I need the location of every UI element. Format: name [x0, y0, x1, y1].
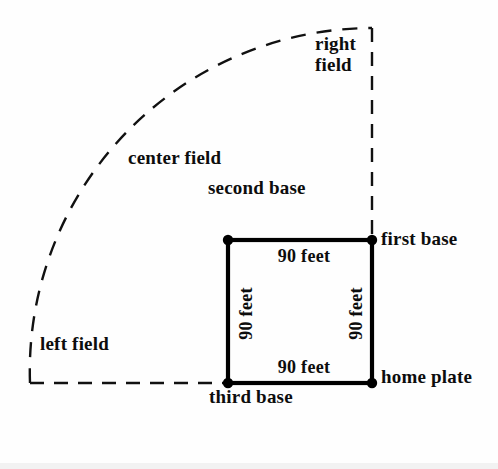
- label-left-field: left field: [40, 334, 124, 355]
- home-plate-marker: [367, 378, 377, 388]
- outfield-fence-arc: [30, 28, 372, 383]
- first-base-marker: [367, 235, 377, 245]
- dimension-label-left: 90 feet: [236, 266, 257, 362]
- label-second-base: second base: [208, 178, 308, 199]
- label-right-field: right field: [315, 34, 387, 75]
- label-third-base: third base: [209, 387, 293, 408]
- dimension-label-bottom: 90 feet: [256, 357, 352, 378]
- label-home-plate: home plate: [381, 367, 473, 388]
- label-center-field: center field: [128, 148, 224, 169]
- label-first-base: first base: [381, 229, 498, 250]
- baseball-field-diagram: right field center field left field seco…: [0, 0, 498, 469]
- second-base-marker: [223, 235, 233, 245]
- page-bottom-edge: [0, 463, 498, 469]
- dimension-label-top: 90 feet: [256, 246, 352, 267]
- dimension-label-right: 90 feet: [346, 266, 367, 362]
